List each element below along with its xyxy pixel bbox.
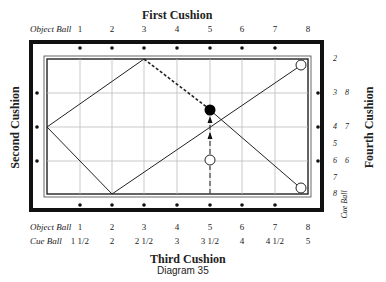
object-ball (205, 105, 216, 116)
bottom-cue-number: 4 (232, 236, 252, 246)
grid-lines (47, 59, 308, 194)
right-object-number: 6 (333, 156, 337, 165)
top-number: 2 (102, 24, 122, 34)
right-object-number: 4 (333, 122, 337, 131)
ball-paths (47, 59, 297, 194)
top-number: 1 (70, 24, 90, 34)
arrowheads (208, 116, 213, 139)
right-object-number: 3 (333, 88, 337, 97)
right-cue-number: 7 (345, 122, 349, 131)
bottom-object-number: 7 (265, 222, 285, 232)
top-number: 5 (200, 24, 220, 34)
bottom-cue-number: 4 1/2 (265, 236, 285, 246)
right-object-number: 7 (333, 173, 337, 182)
bottom-cue-number: 3 1/2 (200, 236, 220, 246)
top-number: 7 (265, 24, 285, 34)
cue-ball (205, 155, 215, 165)
bottom-object-number: 2 (102, 222, 122, 232)
target-ball-bottom-right (296, 183, 306, 193)
right-object-number: 5 (333, 139, 337, 148)
bottom-object-number: 4 (167, 222, 187, 232)
bottom-cue-ball-label: Cue Ball (30, 236, 62, 246)
bottom-object-number: 5 (200, 222, 220, 232)
top-number: 3 (134, 24, 154, 34)
table-rail-frame (31, 42, 322, 210)
top-number: 4 (167, 24, 187, 34)
diagram-caption: Diagram 35 (157, 265, 209, 276)
right-object-number: 8 (333, 189, 337, 198)
cushion-inner-line (47, 59, 308, 194)
bottom-object-number: 1 (70, 222, 90, 232)
right-object-number: 2 (333, 54, 337, 63)
bottom-cue-number: 3 (167, 236, 187, 246)
bottom-object-ball-label: Object Ball (30, 222, 71, 232)
bottom-cue-number: 1 1/2 (70, 236, 90, 246)
right-cue-number: 6 (345, 156, 349, 165)
bottom-cue-number: 2 (102, 236, 122, 246)
top-number: 6 (232, 24, 252, 34)
rail-diamonds (35, 46, 320, 207)
bottom-object-number: 6 (232, 222, 252, 232)
bottom-cue-number: 5 (298, 236, 318, 246)
bottom-cue-number: 2 1/2 (134, 236, 154, 246)
top-number: 8 (298, 24, 318, 34)
right-cue-number: 8 (345, 88, 349, 97)
top-object-ball-label: Object Ball (30, 24, 71, 34)
bottom-object-number: 8 (298, 222, 318, 232)
second-cushion-title: Second Cushion (8, 86, 23, 168)
bottom-object-number: 3 (134, 222, 154, 232)
right-cue-ball-label: Cue Ball (340, 190, 349, 218)
cushion-outer-line (44, 56, 311, 197)
target-ball-top-right (296, 60, 306, 70)
fourth-cushion-title: Fourth Cushion (362, 87, 377, 169)
first-cushion-title: First Cushion (142, 8, 212, 23)
